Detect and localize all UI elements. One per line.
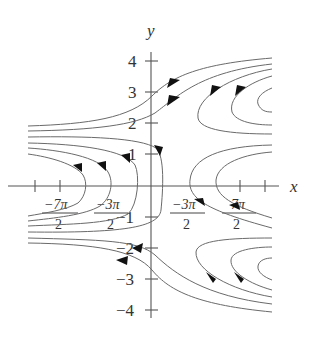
trajectory-bottom-right-u3 xyxy=(258,258,272,280)
y-axis-label: y xyxy=(145,21,155,40)
svg-text:−7π: −7π xyxy=(44,197,68,212)
direction-arrows xyxy=(73,78,246,283)
arrow-icon xyxy=(194,198,205,206)
y-tick-label: 2 xyxy=(128,114,137,133)
trajectory-right-2 xyxy=(216,152,272,218)
arrow-icon xyxy=(121,153,130,163)
svg-text:2: 2 xyxy=(183,217,190,232)
y-tick-label: 3 xyxy=(128,83,137,102)
y-tick-label: 4 xyxy=(128,52,137,71)
arrow-icon xyxy=(210,85,221,96)
svg-text:2: 2 xyxy=(233,217,240,232)
trajectory-top-right-u2 xyxy=(232,76,272,125)
y-tick-label: −3 xyxy=(116,270,134,289)
arrow-icon xyxy=(167,95,180,106)
arrow-icon xyxy=(167,78,180,88)
y-tick-label: −4 xyxy=(116,301,135,320)
arrow-icon xyxy=(235,85,246,96)
trajectory-bottom-right-u2 xyxy=(231,247,272,290)
trajectory-top-right-u3 xyxy=(258,88,272,112)
trajectory-left-1 xyxy=(28,137,163,232)
svg-text:−3π: −3π xyxy=(96,197,120,212)
y-tick-label: −2 xyxy=(116,239,134,258)
svg-text:−3π: −3π xyxy=(172,197,196,212)
axes: y x 4 3 2 1 −1 −2 −3 −4 −7π 2 −3π 2 xyxy=(8,21,298,320)
phase-portrait-figure: y x 4 3 2 1 −1 −2 −3 −4 −7π 2 −3π 2 xyxy=(0,0,315,346)
arrow-icon xyxy=(97,161,106,171)
x-axis-label: x xyxy=(289,177,298,196)
